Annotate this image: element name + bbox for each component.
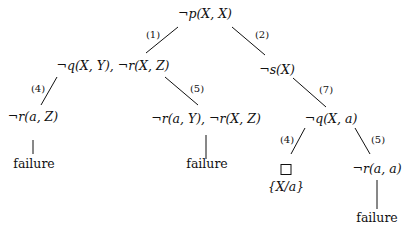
node-n1: ¬q(X, Y), ¬r(X, Z) xyxy=(56,59,169,73)
edge-q-raa xyxy=(355,128,370,154)
node-raa: ¬r(a, a) xyxy=(352,162,401,176)
edge-label-5b: (5) xyxy=(371,134,385,146)
node-q-xa: ¬q(X, a) xyxy=(305,112,358,126)
failure-label-1: failure xyxy=(13,157,55,171)
edge-label-4b: (4) xyxy=(280,134,294,146)
failure-label-3: failure xyxy=(356,211,398,225)
node-n2: ¬s(X) xyxy=(259,63,295,77)
empty-clause-icon xyxy=(281,164,292,175)
edge-label-1: (1) xyxy=(146,29,160,41)
node-n1-right: ¬r(a, Y), ¬r(X, Z) xyxy=(151,112,261,126)
edge-label-2: (2) xyxy=(255,29,269,41)
derivation-tree: ¬p(X, X) ¬q(X, Y), ¬r(X, Z) ¬s(X) ¬r(a, … xyxy=(0,0,410,235)
failure-label-2: failure xyxy=(186,157,228,171)
edge-label-4a: (4) xyxy=(31,83,45,95)
node-substitution: {X/a} xyxy=(268,180,304,194)
node-root: ¬p(X, X) xyxy=(178,7,232,21)
edge-label-7: (7) xyxy=(319,84,333,96)
edge-label-5a: (5) xyxy=(190,83,204,95)
node-n1-left: ¬r(a, Z) xyxy=(8,110,58,124)
